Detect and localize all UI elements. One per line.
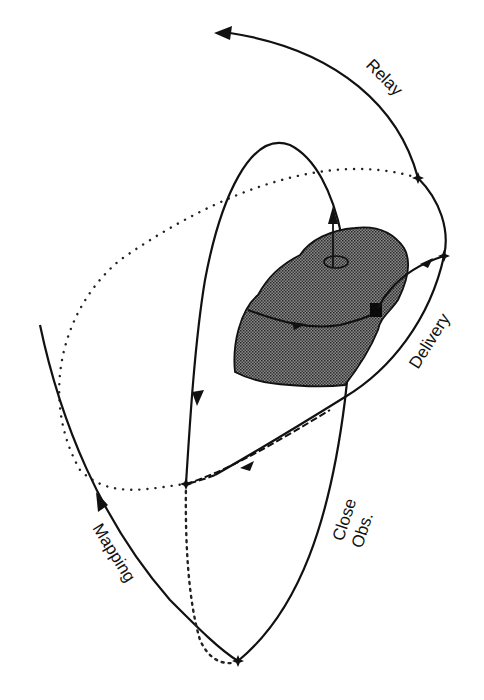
mapping-label: Mapping bbox=[89, 520, 140, 585]
relay-arrow-icon bbox=[214, 26, 232, 40]
delivery-node-icon bbox=[438, 250, 450, 262]
orbit-diagram: Relay Delivery Mapping Close Obs. bbox=[0, 0, 484, 700]
mapping-junction-node-icon bbox=[180, 478, 192, 490]
transfer-arrow-icon bbox=[240, 461, 254, 471]
transfer-arc bbox=[186, 410, 330, 484]
asteroid-body bbox=[234, 227, 408, 386]
close-obs-orbit bbox=[186, 143, 350, 661]
descent-arrow-icon bbox=[420, 258, 433, 268]
delivery-approach-arc bbox=[418, 178, 446, 256]
relay-label: Relay bbox=[362, 55, 407, 100]
close-obs-arrow-icon bbox=[192, 390, 204, 406]
delivery-label: Delivery bbox=[405, 310, 454, 373]
relay-trajectory bbox=[230, 33, 418, 178]
mapping-trajectory bbox=[40, 325, 238, 661]
mapping-dotted-link bbox=[186, 484, 232, 663]
